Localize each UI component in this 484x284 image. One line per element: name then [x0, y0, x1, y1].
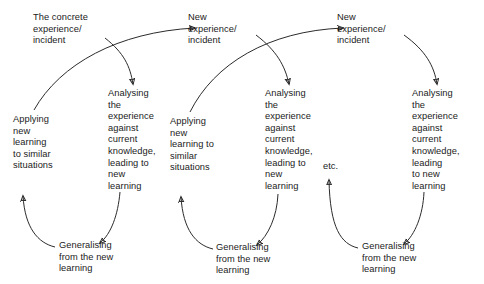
arrow-trigger1-to-analysing1 [105, 38, 133, 84]
node-generalising-2: Generalising from the new learning [216, 242, 270, 277]
diagram-canvas: The concrete experience/ incident Analys… [0, 0, 484, 284]
node-trigger-3: New experience/ incident [337, 12, 386, 47]
node-trigger-1: The concrete experience/ incident [33, 12, 88, 47]
node-analysing-1: Analysing the experience against current… [108, 88, 156, 192]
arrow-analysing3-to-generalising3 [404, 192, 424, 244]
node-analysing-3: Analysing the experience against current… [412, 88, 460, 192]
arrow-generalising1-to-applying1 [23, 196, 55, 247]
arrow-analysing2-to-generalising2 [257, 194, 278, 245]
node-generalising-3: Generalising from the new learning [362, 241, 416, 276]
node-generalising-1: Generalising from the new learning [59, 240, 113, 275]
node-applying-2: Applying new learning to similar situati… [170, 116, 214, 174]
node-applying-1: Applying new learning to similar situati… [13, 114, 53, 172]
arrow-trigger3-to-analysing3 [404, 35, 437, 84]
arrow-generalising3-to-etc [329, 180, 358, 248]
continuation-label: etc. [323, 161, 338, 173]
node-analysing-2: Analysing the experience against current… [265, 88, 313, 192]
node-trigger-2: New experience/ incident [188, 12, 237, 47]
arrow-generalising2-to-applying2 [181, 197, 213, 249]
arrow-analysing1-to-generalising1 [100, 192, 120, 243]
arrow-trigger2-to-analysing2 [256, 35, 289, 84]
